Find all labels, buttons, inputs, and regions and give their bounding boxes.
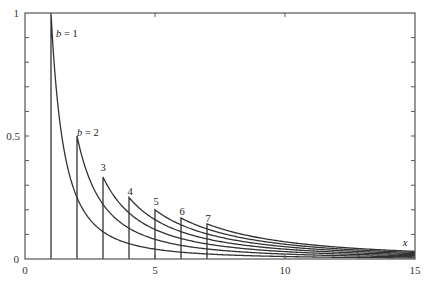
curve-label-b4: 4	[127, 186, 133, 197]
curve-label-b7: 7	[205, 213, 210, 224]
svg-text:b = 2: b = 2	[77, 127, 99, 138]
plot-area	[51, 13, 415, 259]
x-axis-label: x	[402, 237, 408, 248]
curve-label-b2: b = 2	[77, 127, 99, 138]
y-tick-label-0.5: 0.5	[6, 130, 20, 142]
y-tick-label-1: 1	[14, 7, 20, 19]
x-tick-label-0: 0	[22, 264, 28, 276]
x-tick-label-5: 5	[152, 264, 158, 276]
curve-b2	[77, 136, 415, 259]
curve-b1	[51, 13, 415, 259]
x-tick-label-10: 10	[280, 264, 292, 276]
chart: 1 0.5 0 0 5 10 15 b = 1 b = 2 3 4 5 6 7 …	[0, 0, 429, 284]
x-tick-label-15: 15	[410, 264, 422, 276]
y-tick-label-0: 0	[14, 253, 20, 265]
curve-label-b6: 6	[179, 206, 184, 217]
curve-label-b3: 3	[100, 162, 105, 173]
curve-label-b5: 5	[153, 196, 158, 207]
svg-text:b = 1: b = 1	[56, 28, 78, 39]
curve-label-b1: b = 1	[56, 28, 78, 39]
